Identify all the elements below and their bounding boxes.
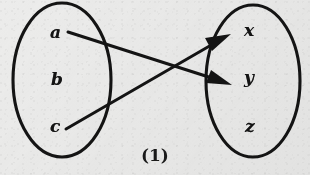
- element-label-y: y: [244, 69, 254, 86]
- element-label-a: a: [50, 24, 61, 41]
- element-label-x: x: [244, 22, 254, 39]
- element-label-c: c: [50, 118, 60, 135]
- figure-caption: (1): [141, 147, 169, 164]
- element-label-z: z: [245, 118, 255, 135]
- element-label-b: b: [51, 71, 63, 88]
- function-diagram-figure: a b c x y z (1): [0, 0, 310, 175]
- arrow-a-to-y-head: [206, 70, 232, 85]
